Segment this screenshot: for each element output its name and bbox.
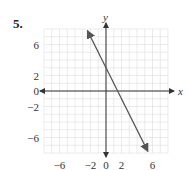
y-axis-label: y [102,11,108,23]
axes: xy [40,11,183,157]
y-tick-label: 0 [34,85,40,97]
x-axis-label: x [177,85,183,97]
tick-labels: −6−2026620−2−6 [27,39,155,170]
x-tick-label: −2 [85,159,97,169]
x-tick-label: −6 [54,159,66,169]
x-tick-label: 2 [119,159,125,169]
y-tick-label: 2 [34,70,40,82]
y-tick-label: −2 [27,101,39,113]
x-tick-label: 6 [150,159,156,169]
coordinate-plane: xy −6−2026620−2−6 [0,0,189,169]
y-tick-label: 6 [34,39,40,51]
y-tick-label: −6 [27,132,39,144]
x-tick-label: 0 [103,159,109,169]
